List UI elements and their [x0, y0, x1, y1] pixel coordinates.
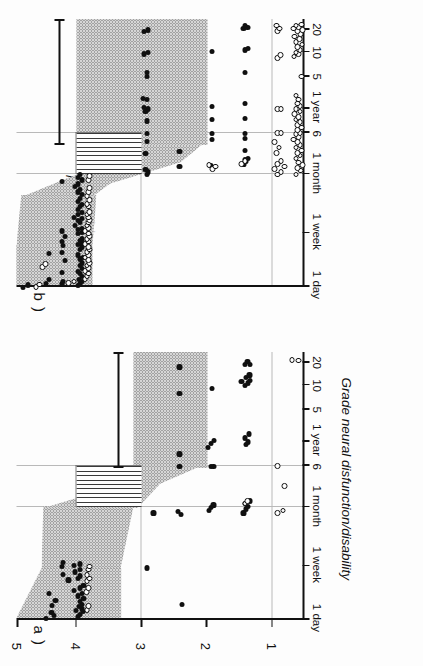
data-point-filled	[144, 131, 149, 136]
data-point-open	[277, 52, 283, 58]
data-point-open	[86, 173, 92, 179]
data-point-open	[281, 483, 287, 489]
x-tick-label-1month: 1 month	[310, 485, 322, 527]
data-point-filled	[209, 131, 214, 136]
y-tick-label-5: 5	[8, 626, 23, 650]
data-point-filled	[176, 149, 181, 154]
hatched-block-a	[75, 465, 142, 508]
data-point-filled	[77, 187, 82, 192]
data-point-open	[85, 603, 91, 609]
data-point-open	[42, 261, 48, 267]
panel-b-x-axis	[302, 19, 304, 287]
data-point-open	[295, 358, 301, 364]
x-tick-1month-b	[302, 173, 309, 175]
data-point-filled	[238, 379, 243, 384]
x-tick-6months-b	[302, 131, 309, 133]
data-point-open	[85, 585, 91, 591]
data-point-filled	[49, 603, 54, 608]
x-tick-5years	[302, 408, 309, 410]
data-point-filled	[59, 239, 64, 244]
guide-grade-1	[271, 352, 272, 620]
data-point-open	[278, 169, 284, 175]
panel-a-x-axis	[302, 352, 304, 620]
stipple-band-early	[16, 568, 121, 618]
figure-stage: ( a ) N = 12	[0, 0, 423, 666]
data-point-open	[36, 282, 42, 288]
data-point-open	[206, 162, 212, 168]
data-point-filled	[144, 565, 149, 570]
x-tick-1year	[302, 440, 309, 442]
data-point-filled	[25, 282, 30, 287]
data-point-filled	[46, 591, 51, 596]
data-point-filled	[176, 164, 181, 169]
stipple-band-plateau-b	[76, 19, 207, 145]
x-tick-label-20: 20	[310, 356, 322, 369]
x-tick-10years	[302, 384, 309, 386]
scale-bar-a-right-cap	[113, 352, 123, 354]
data-point-filled	[176, 391, 181, 396]
scale-bar-b-right-cap	[54, 19, 64, 21]
data-point-open	[298, 74, 304, 80]
data-point-open	[274, 463, 280, 469]
guide-grade-1-b	[271, 19, 272, 287]
data-point-open	[273, 150, 279, 156]
data-point-filled	[210, 464, 215, 469]
y-tick-label-1: 1	[263, 626, 278, 650]
data-point-open	[273, 23, 279, 29]
x-tick-label-5-b: 5	[310, 74, 322, 80]
data-point-filled	[142, 151, 147, 156]
scale-bar-a-left-cap	[113, 466, 123, 468]
y-tick-label-4: 4	[67, 626, 82, 650]
data-point-filled	[72, 569, 77, 574]
data-point-filled	[59, 228, 64, 233]
data-point-filled	[77, 561, 82, 566]
data-point-filled	[246, 372, 251, 377]
panel-a-y-axis	[16, 618, 304, 620]
data-point-open	[298, 22, 304, 28]
data-point-open	[293, 172, 299, 178]
data-point-filled	[247, 362, 252, 367]
data-point-open	[242, 158, 248, 164]
data-point-filled	[242, 101, 247, 106]
vguide-1month-b	[16, 173, 304, 174]
data-point-filled	[72, 223, 77, 228]
x-tick-label-6: 6	[310, 464, 322, 470]
data-point-filled	[209, 49, 214, 54]
data-point-open	[291, 111, 297, 117]
data-point-open	[274, 510, 280, 516]
x-tick-label-1week: 1 week	[310, 547, 322, 583]
x-tick-1week	[302, 565, 309, 567]
data-point-filled	[48, 610, 53, 615]
data-point-open	[84, 572, 90, 578]
data-point-filled	[176, 451, 181, 456]
x-tick-1day	[302, 618, 309, 620]
data-point-open	[278, 158, 284, 164]
data-point-filled	[59, 179, 64, 184]
data-point-filled	[65, 577, 70, 582]
data-point-filled	[150, 510, 155, 515]
data-point-open	[278, 130, 284, 136]
data-point-filled	[245, 46, 250, 51]
data-point-open	[298, 148, 304, 154]
data-point-open	[291, 34, 297, 40]
data-point-filled	[46, 277, 51, 282]
data-point-filled	[62, 258, 67, 263]
panel-b-plot-area: 1 day 1 week 1 month 6 1 year 5 10 20	[16, 19, 304, 287]
data-point-filled	[211, 438, 216, 443]
panel-a: ( a ) N = 12	[0, 333, 423, 666]
data-point-filled	[142, 167, 147, 172]
y-tick-label-2: 2	[197, 626, 212, 650]
x-tick-label-1day-b: 1 day	[310, 271, 322, 299]
stipple-band-shoulder	[41, 506, 133, 568]
data-point-filled	[144, 139, 149, 144]
data-point-filled	[59, 270, 64, 275]
data-point-filled	[77, 573, 82, 578]
figure-root: ( a ) N = 12	[0, 0, 423, 666]
y-tick-label-3: 3	[132, 626, 147, 650]
scale-bar-b-left-cap	[54, 143, 64, 145]
data-point-open	[244, 498, 250, 504]
hatched-block-b	[75, 132, 142, 175]
y-axis-title: Grade neural disfunction/disability	[338, 377, 353, 580]
data-point-filled	[179, 602, 184, 607]
data-point-open	[271, 140, 277, 146]
